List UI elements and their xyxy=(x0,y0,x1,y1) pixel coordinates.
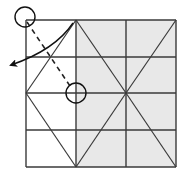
fold-diagram xyxy=(0,0,185,178)
diagram-canvas xyxy=(0,0,185,178)
dashed-fold-line xyxy=(27,22,70,86)
corner-circle-marker xyxy=(15,7,35,27)
fold-arrow-icon xyxy=(11,23,73,65)
